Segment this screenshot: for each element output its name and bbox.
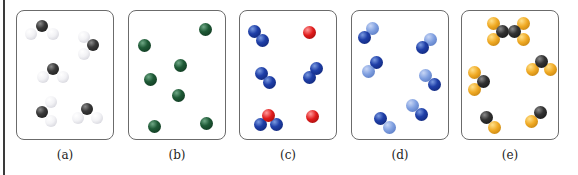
black-atom — [508, 25, 521, 38]
green-atom — [200, 117, 213, 130]
red-atom — [303, 26, 316, 39]
panel-b-label: (b) — [128, 148, 226, 162]
blue-atom — [256, 34, 269, 47]
green-atom — [144, 73, 157, 86]
red-atom — [306, 110, 319, 123]
black-atom — [534, 106, 547, 119]
green-atom — [199, 23, 212, 36]
white-atom — [25, 28, 37, 40]
dark-atom — [47, 63, 59, 75]
black-atom — [535, 55, 548, 68]
dark-atom — [81, 103, 93, 115]
panel-d — [351, 10, 449, 140]
dark-atom — [36, 106, 48, 118]
dark-atom — [36, 20, 48, 32]
white-atom — [91, 112, 103, 124]
blue-atom — [263, 76, 276, 89]
panel-a — [16, 10, 114, 140]
green-atom — [148, 120, 161, 133]
panel-b — [128, 10, 226, 140]
panel-d-label: (d) — [351, 148, 449, 162]
white-atom — [72, 112, 84, 124]
green-atom — [174, 59, 187, 72]
red-atom — [262, 109, 275, 122]
panel-a-label: (a) — [16, 148, 114, 162]
dark-atom — [87, 39, 99, 51]
panel-e — [461, 10, 559, 140]
white-atom — [37, 71, 49, 83]
blue-atom — [416, 41, 429, 54]
blue-atom — [310, 62, 323, 75]
blue-atom — [428, 78, 441, 91]
green-atom — [138, 39, 151, 52]
light-blue-atom — [362, 65, 375, 78]
panel-e-label: (e) — [461, 148, 559, 162]
white-atom — [78, 48, 90, 60]
yellow-atom — [488, 121, 501, 134]
blue-atom — [358, 31, 371, 44]
white-atom — [47, 28, 59, 40]
panel-c — [239, 10, 337, 140]
panel-c-label: (c) — [239, 148, 337, 162]
green-atom — [172, 89, 185, 102]
white-atom — [45, 115, 57, 127]
black-atom — [477, 75, 490, 88]
white-atom — [57, 71, 69, 83]
light-blue-atom — [383, 121, 396, 134]
left-edge-rule — [3, 0, 5, 175]
white-atom — [45, 96, 57, 108]
blue-atom — [415, 108, 428, 121]
